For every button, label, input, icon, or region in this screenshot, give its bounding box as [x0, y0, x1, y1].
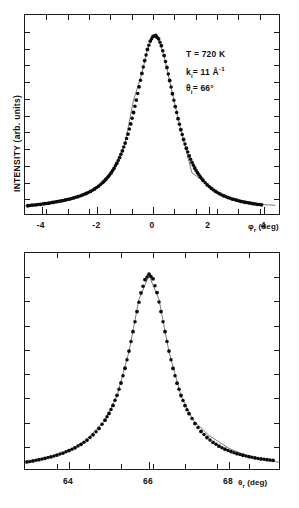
axis-tick	[217, 209, 218, 214]
data-point	[241, 453, 245, 457]
data-point	[159, 310, 163, 314]
axis-tick	[274, 166, 279, 167]
incident-angle-value: = 66°	[193, 83, 214, 93]
data-point	[169, 85, 173, 89]
fit-curve	[25, 276, 279, 463]
wavevector-value: = 11 Å	[193, 66, 219, 76]
axis-tick	[238, 15, 239, 20]
top-panel: INTENSITY (arb. units) -4-2024 φr (deg) …	[0, 0, 299, 240]
axis-tick	[25, 65, 30, 66]
data-point	[123, 141, 127, 145]
axis-tick	[25, 326, 30, 327]
data-point	[100, 423, 104, 427]
axis-tick	[153, 15, 154, 20]
data-point	[130, 116, 134, 120]
data-point	[121, 374, 125, 378]
experimental-conditions-annotation: T = 720 K ki= 11 Å-1 θi= 66°	[186, 48, 225, 98]
axis-tick	[260, 209, 261, 214]
data-point	[173, 374, 177, 378]
axis-tick	[274, 374, 279, 375]
data-point	[169, 358, 173, 362]
axis-tick	[89, 253, 90, 258]
data-point	[202, 433, 206, 437]
data-point	[175, 111, 179, 115]
data-point	[190, 417, 194, 421]
axis-tick	[174, 15, 175, 20]
data-point	[185, 408, 189, 412]
data-point	[161, 320, 165, 324]
x-tick-label: -4	[37, 220, 45, 230]
axis-tick	[274, 447, 279, 448]
data-point	[179, 128, 183, 132]
data-point	[142, 65, 146, 69]
data-point	[271, 458, 275, 462]
data-point	[164, 60, 168, 64]
data-point	[139, 78, 143, 82]
figure-container: INTENSITY (arb. units) -4-2024 φr (deg) …	[0, 0, 299, 508]
wavevector-exponent: -1	[219, 65, 225, 72]
data-point	[178, 122, 182, 126]
data-point	[141, 285, 145, 289]
axis-tick	[249, 464, 250, 469]
data-point	[260, 203, 264, 207]
axis-tick	[274, 398, 279, 399]
data-point	[147, 43, 151, 47]
data-point	[157, 300, 161, 304]
axis-tick	[174, 209, 175, 214]
axis-tick	[132, 209, 133, 214]
axis-tick	[25, 99, 30, 100]
axis-tick	[274, 82, 279, 83]
data-point	[133, 320, 137, 324]
data-point	[153, 284, 157, 288]
axis-tick	[110, 209, 111, 214]
data-point	[119, 381, 123, 385]
axis-tick	[25, 116, 30, 117]
x-major-tick	[149, 462, 150, 469]
data-point	[175, 381, 179, 385]
axis-tick	[68, 15, 69, 20]
bottom-x-axis-title: θr (deg)	[238, 478, 267, 489]
data-point	[171, 92, 175, 96]
data-point	[103, 418, 107, 422]
data-point	[177, 388, 181, 392]
data-point-group	[26, 34, 264, 208]
data-point	[118, 156, 122, 160]
top-x-axis-subscript: r	[254, 227, 256, 233]
data-point	[137, 301, 141, 305]
axis-tick	[217, 253, 218, 258]
x-major-tick	[209, 207, 210, 214]
axis-tick	[25, 49, 30, 50]
data-point	[136, 92, 140, 96]
data-point	[205, 436, 209, 440]
data-point	[167, 349, 171, 353]
data-point	[171, 367, 175, 371]
data-point	[167, 72, 171, 76]
x-tick-label: 64	[63, 476, 73, 486]
axis-tick	[57, 253, 58, 258]
data-point	[140, 72, 144, 76]
axis-tick	[196, 209, 197, 214]
data-point	[247, 455, 251, 459]
data-point	[128, 127, 132, 130]
axis-tick	[110, 15, 111, 20]
axis-tick	[153, 464, 154, 469]
bottom-x-axis-subscript: r	[242, 483, 244, 489]
axis-tick	[25, 350, 30, 351]
axis-tick	[153, 253, 154, 258]
x-major-tick	[69, 462, 70, 469]
axis-tick	[89, 15, 90, 20]
data-point	[115, 393, 119, 397]
data-point	[173, 105, 177, 109]
data-point	[43, 456, 47, 460]
data-point	[132, 111, 136, 115]
axis-tick	[185, 253, 186, 258]
axis-tick	[274, 277, 279, 278]
data-point	[187, 412, 191, 416]
axis-tick	[274, 326, 279, 327]
axis-tick	[25, 166, 30, 167]
top-plot-area	[24, 14, 280, 215]
axis-tick	[249, 253, 250, 258]
axis-tick	[274, 49, 279, 50]
axis-tick	[274, 199, 279, 200]
x-tick-label: 2	[205, 220, 210, 230]
